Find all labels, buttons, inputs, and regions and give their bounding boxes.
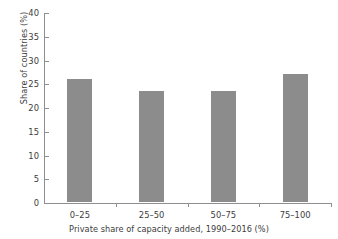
x-tick-mark (331, 203, 332, 207)
y-axis-title: Share of countries (%) (17, 0, 31, 138)
y-tick: 5 (44, 179, 50, 180)
y-tick-label: 30 (28, 56, 39, 65)
plot-area: 0510152025303540 0–2525–5050–7575–100 (44, 13, 331, 203)
y-tick-label: 10 (28, 151, 39, 160)
y-tick: 35 (44, 37, 50, 38)
bar (211, 91, 236, 202)
y-tick-mark (45, 13, 49, 14)
y-tick: 20 (44, 108, 50, 109)
x-tick-mark (188, 203, 189, 207)
x-tick-label: 25–50 (139, 210, 165, 220)
x-tick-label: 75–100 (280, 210, 311, 220)
y-tick-mark (45, 37, 49, 38)
y-tick-mark (45, 179, 49, 180)
y-tick-mark (45, 61, 49, 62)
y-tick-mark (45, 203, 49, 204)
y-tick-mark (45, 156, 49, 157)
bar-chart-figure: Share of countries (%) 0510152025303540 … (0, 0, 338, 239)
y-tick: 25 (44, 84, 50, 85)
y-tick-label: 25 (28, 80, 39, 89)
x-axis-title: Private share of capacity added, 1990–20… (0, 224, 338, 235)
bar (283, 74, 308, 202)
y-tick: 30 (44, 61, 50, 62)
x-tick-label: 0–25 (70, 210, 90, 220)
y-tick: 15 (44, 132, 50, 133)
y-tick-mark (45, 132, 49, 133)
y-tick-label: 0 (34, 199, 39, 208)
y-tick: 10 (44, 156, 50, 157)
bar (67, 79, 92, 202)
y-tick-label: 20 (28, 104, 39, 113)
y-tick-mark (45, 84, 49, 85)
y-tick-mark (45, 108, 49, 109)
y-tick-label: 35 (28, 32, 39, 41)
y-tick-label: 5 (34, 175, 39, 184)
y-tick-label: 40 (28, 9, 39, 18)
x-tick-mark (116, 203, 117, 207)
y-tick: 0 (44, 203, 50, 204)
y-tick-label: 15 (28, 127, 39, 136)
x-tick-mark (259, 203, 260, 207)
y-tick: 40 (44, 13, 50, 14)
bar (139, 91, 164, 202)
x-tick-label: 50–75 (211, 210, 237, 220)
